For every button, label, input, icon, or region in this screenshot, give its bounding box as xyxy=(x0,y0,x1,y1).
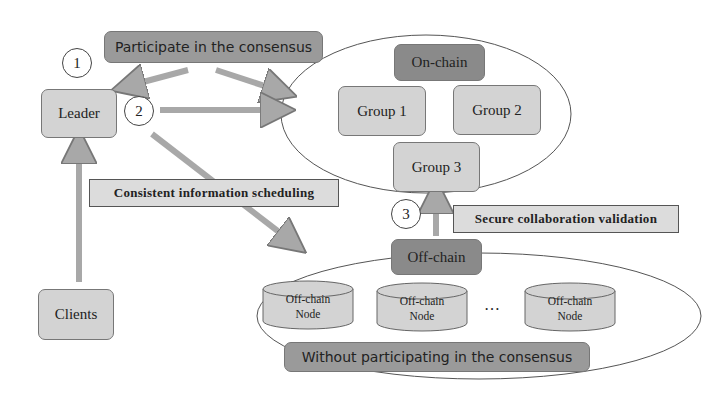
validation-label: Secure collaboration validation xyxy=(453,205,679,233)
without-consensus-label: Without participating in the consensus xyxy=(284,342,590,372)
step-2-badge: 2 xyxy=(124,96,154,126)
node-line2: Node xyxy=(558,310,583,322)
step-1-badge: 1 xyxy=(62,48,92,78)
node-line1: Off-chain xyxy=(548,295,593,307)
node-line1: Off-chain xyxy=(286,293,331,305)
arrow-consensus-to-onchain xyxy=(216,70,280,91)
node-line1: Off-chain xyxy=(400,295,445,307)
off-chain-header: Off-chain xyxy=(391,239,482,275)
off-chain-node-2: Off-chainNode xyxy=(376,282,468,332)
ellipsis: … xyxy=(484,296,502,314)
leader-node: Leader xyxy=(41,89,117,138)
step-3-badge: 3 xyxy=(391,199,421,229)
node-line2: Node xyxy=(410,310,435,322)
participate-consensus-label: Participate in the consensus xyxy=(104,31,323,63)
off-chain-node-1: Off-chainNode xyxy=(262,280,354,330)
scheduling-label: Consistent information scheduling xyxy=(89,179,339,207)
group-3-node: Group 3 xyxy=(393,142,480,192)
group-2-node: Group 2 xyxy=(453,85,541,135)
clients-node: Clients xyxy=(38,289,114,340)
node-line2: Node xyxy=(296,308,321,320)
group-1-node: Group 1 xyxy=(338,86,426,136)
on-chain-header: On-chain xyxy=(394,44,485,81)
off-chain-node-3: Off-chainNode xyxy=(524,282,616,332)
arrow-consensus-to-leader xyxy=(128,70,188,86)
